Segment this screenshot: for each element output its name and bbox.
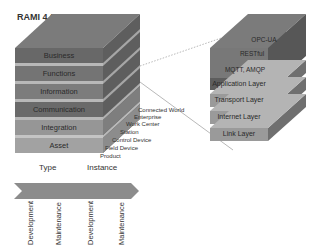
hierarchy-connected-world: Connected World bbox=[138, 107, 184, 113]
hierarchy-control-device: Control Device bbox=[112, 137, 151, 143]
hierarchy-enterprise: Enterprise bbox=[134, 114, 161, 120]
rami-layer-integration: Integration bbox=[15, 123, 103, 132]
protocol-restful: RESTful bbox=[232, 50, 272, 57]
life-cycle-arrows bbox=[14, 183, 139, 199]
stage-instance-development: Development bbox=[86, 201, 95, 245]
hierarchy-work-center: Work Center bbox=[126, 121, 160, 127]
rami-layer-business: Business bbox=[15, 51, 103, 60]
stack-link-layer: Link Layer bbox=[210, 130, 268, 137]
rami-layer-information: Information bbox=[15, 87, 103, 96]
rami-layer-communication: Communication bbox=[15, 105, 103, 114]
stage-instance-maintenance: Maintenance bbox=[117, 202, 126, 245]
hierarchy-station: Station bbox=[120, 129, 139, 135]
stage-type-development: Development bbox=[26, 201, 35, 245]
rami-layers bbox=[15, 48, 103, 153]
stage-type-maintenance: Maintenance bbox=[54, 202, 63, 245]
stack-transport-layer: Transport Layer bbox=[210, 96, 268, 103]
hierarchy-field-device: Field Device bbox=[105, 145, 138, 151]
stack-application-layer: Application Layer bbox=[210, 80, 268, 87]
protocol-stack bbox=[210, 14, 306, 141]
rami-layer-asset: Asset bbox=[15, 141, 103, 150]
hierarchy-product: Product bbox=[100, 153, 121, 159]
life-cycle-type-label: Type bbox=[39, 163, 56, 172]
life-cycle-instance-label: Instance bbox=[87, 163, 117, 172]
rami-layer-functions: Functions bbox=[15, 69, 103, 78]
protocol-opcua: OPC-UA bbox=[244, 36, 284, 43]
protocol-mqtt-amqp: MQTT, AMQP bbox=[215, 66, 275, 73]
stack-internet-layer: Internet Layer bbox=[210, 113, 268, 120]
